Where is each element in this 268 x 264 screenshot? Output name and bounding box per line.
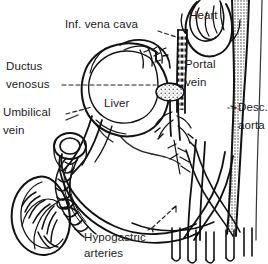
label-hypogastric-arteries-line1: Hypogastric <box>84 231 146 244</box>
label-descending-aorta-line1: Desc. <box>238 101 268 114</box>
label-descending-aorta-line2: aorta <box>238 119 265 132</box>
label-liver: Liver <box>104 97 129 110</box>
fetal-circulation-figure: Inf. vena cava Heart Ductus venosus Port… <box>0 0 268 264</box>
label-umbilical-vein-line1: Umbilical <box>3 106 51 119</box>
label-portal-vein-line2: vein <box>185 76 207 89</box>
umbilical-vein-vessel <box>64 116 112 174</box>
portal-vein-vessel <box>155 100 195 147</box>
limb-vessel-stubs <box>172 228 252 263</box>
label-hypogastric-arteries-line2: arteries <box>84 247 123 260</box>
mesenteric-branches <box>168 140 190 174</box>
label-inferior-vena-cava: Inf. vena cava <box>65 18 138 31</box>
label-ductus-venosus-line2: venosus <box>6 78 50 91</box>
leader-inf-vena-cava <box>158 31 176 37</box>
anatomy-illustration <box>0 0 268 264</box>
label-ductus-venosus-line1: Ductus <box>6 60 42 73</box>
label-heart: Heart <box>189 9 218 22</box>
body-wall-outline <box>96 124 180 164</box>
label-portal-vein-line1: Portal <box>185 58 216 71</box>
ductus-venosus-junction <box>156 83 184 101</box>
label-umbilical-vein-line2: vein <box>3 124 25 137</box>
